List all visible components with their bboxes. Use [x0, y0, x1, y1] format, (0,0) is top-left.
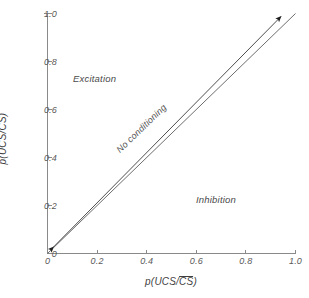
x-axis-ticks — [48, 250, 296, 254]
x-tick-label-1: 0.2 — [91, 256, 104, 266]
y-tick-label-5: 1.0 — [44, 9, 57, 19]
x-tick-label-5: 1.0 — [289, 256, 302, 266]
y-tick-label-3: 0.6 — [44, 105, 57, 115]
no-conditioning-diagonal — [48, 14, 296, 254]
x-tick-label-2: 0.4 — [140, 256, 153, 266]
plot-canvas — [0, 0, 309, 298]
x-tick-label-0: 0 — [45, 256, 50, 266]
y-tick-label-2: 0.4 — [44, 153, 57, 163]
x-axis-title-overlined: CS — [179, 276, 193, 288]
contingency-double-arrow — [54, 17, 282, 248]
x-axis-title-prefix: p(UCS/ — [145, 276, 179, 287]
y-tick-label-0: 0 — [52, 249, 57, 259]
y-axis-ticks — [48, 14, 52, 254]
x-axis-title: p(UCS/CS) — [145, 276, 197, 288]
y-tick-label-4: 0.8 — [44, 57, 57, 67]
x-axis-title-suffix: ) — [193, 276, 197, 287]
y-axis-title: p(UCS/CS) — [0, 113, 8, 165]
y-tick-label-1: 0.2 — [44, 201, 57, 211]
annotation-excitation: Excitation — [73, 73, 116, 84]
annotation-inhibition: Inhibition — [196, 194, 236, 205]
x-tick-label-4: 0.8 — [239, 256, 252, 266]
contingency-space-figure: 0 0.2 0.4 0.6 0.8 1.0 0 0.2 0.4 0.6 0.8 … — [0, 0, 309, 298]
x-tick-label-3: 0.6 — [190, 256, 203, 266]
